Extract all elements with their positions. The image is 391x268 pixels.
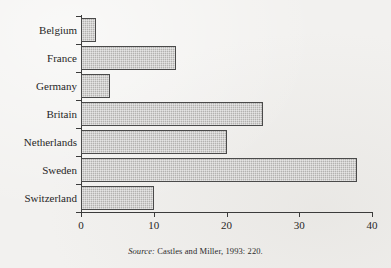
bar-row (81, 184, 372, 212)
category-label-france: France (3, 52, 77, 64)
x-tick (227, 212, 228, 217)
bar-row (81, 16, 372, 44)
bar-chart-figure: BelgiumFranceGermanyBritainNetherlandsSw… (0, 0, 391, 268)
bar-row (81, 156, 372, 184)
bar-germany[interactable] (81, 74, 110, 98)
bar-britain[interactable] (81, 102, 263, 126)
bar-row (81, 72, 372, 100)
bar-belgium[interactable] (81, 18, 96, 42)
source-caption: Source: Castles and Miller, 1993: 220. (0, 246, 391, 256)
category-label-switzerland: Switzerland (3, 192, 77, 204)
category-label-germany: Germany (3, 80, 77, 92)
bar-sweden[interactable] (81, 158, 357, 182)
category-label-netherlands: Netherlands (3, 136, 77, 148)
bar-row (81, 128, 372, 156)
x-tick-label-10: 10 (139, 219, 169, 231)
source-citation: Castles and Miller, 1993: 220. (157, 246, 263, 256)
bar-row (81, 44, 372, 72)
category-axis-labels: BelgiumFranceGermanyBritainNetherlandsSw… (0, 16, 77, 212)
bar-row (81, 100, 372, 128)
x-tick-label-30: 30 (284, 219, 314, 231)
x-tick (81, 212, 82, 217)
bar-switzerland[interactable] (81, 186, 154, 210)
category-label-sweden: Sweden (3, 164, 77, 176)
bar-france[interactable] (81, 46, 176, 70)
x-tick-label-20: 20 (212, 219, 242, 231)
x-tick-label-40: 40 (357, 219, 387, 231)
x-tick (372, 212, 373, 217)
x-tick (299, 212, 300, 217)
bar-netherlands[interactable] (81, 130, 227, 154)
x-tick (154, 212, 155, 217)
category-label-belgium: Belgium (3, 24, 77, 36)
category-label-britain: Britain (3, 108, 77, 120)
x-tick-label-0: 0 (66, 219, 96, 231)
source-label: Source: (128, 246, 155, 256)
plot-area (81, 16, 372, 212)
